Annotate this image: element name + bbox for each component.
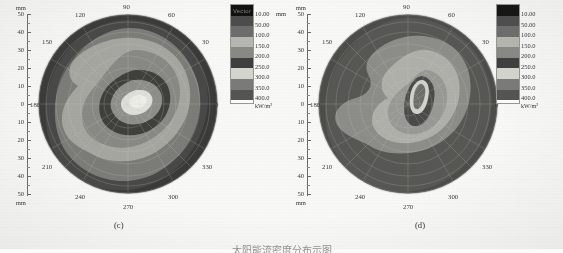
axis-unit-bottom: mm <box>16 200 26 207</box>
colorbar-tick: 100.0 <box>521 31 535 38</box>
colorbar-unit: kW/m² <box>521 103 538 109</box>
axis-tick-label: 10 <box>17 119 24 126</box>
angle-label-300: 300 <box>168 193 178 200</box>
colorbar-tick: 400.0 <box>255 94 269 101</box>
colorbar-tick: 50.00 <box>255 21 269 28</box>
colorbar-tick: 200.0 <box>255 52 269 59</box>
axis-tick <box>307 86 311 87</box>
colorbar-tick: 150.0 <box>521 42 535 49</box>
panel-caption-d: (d) <box>415 220 425 230</box>
axis-tick-label: 40 <box>297 173 304 180</box>
colorbar-tick: 250.0 <box>521 63 535 70</box>
axis-tick-label: 10 <box>17 83 24 90</box>
angle-label-180: 180 <box>30 101 40 108</box>
angle-label-30: 30 <box>202 38 209 45</box>
axis-tick-label: 10 <box>297 119 304 126</box>
colorbar-band-400 <box>231 90 253 101</box>
axis-tick-label: 40 <box>17 29 24 36</box>
colorbar-band-200 <box>497 47 519 58</box>
colorbar-tick: 350.0 <box>255 84 269 91</box>
axis-tick-label: 40 <box>297 29 304 36</box>
axis-tick-label: 50 <box>17 11 24 18</box>
axis-tick-label: 30 <box>17 47 24 54</box>
colorbar-selected-band-label: Vector <box>232 6 252 16</box>
colorbar-tick-labels: 10.00 50.00 100.0 150.0 200.0 250.0 300.… <box>521 4 563 104</box>
colorbar-unit: kW/m² <box>255 103 272 109</box>
angle-label-150: 150 <box>42 38 52 45</box>
angle-label-60: 60 <box>448 11 455 18</box>
angle-label-180: 180 <box>310 101 320 108</box>
colorbar-tick: 350.0 <box>521 84 535 91</box>
axis-minor-tick <box>27 23 30 24</box>
colorbar-tick: 250.0 <box>255 63 269 70</box>
axis-tick <box>27 68 31 69</box>
axis-minor-tick <box>307 41 310 42</box>
axis-minor-tick <box>27 149 30 150</box>
angle-label-90: 90 <box>403 3 410 10</box>
colorbar-band-50 <box>231 16 253 27</box>
axis-tick <box>307 158 311 159</box>
polar-plot-d[interactable] <box>318 14 498 194</box>
colorbar-d[interactable]: 10.00 50.00 100.0 150.0 200.0 250.0 300.… <box>496 4 556 114</box>
colorbar-band-150 <box>231 37 253 48</box>
axis-tick-label: 0 <box>21 101 24 108</box>
axis-tick-label: 20 <box>297 65 304 72</box>
axis-minor-tick <box>27 167 30 168</box>
axis-minor-tick <box>307 167 310 168</box>
axis-tick <box>307 176 311 177</box>
colorbar-band-350 <box>497 79 519 90</box>
panel-d: mm mm 50 40 30 20 10 0 10 20 <box>281 0 563 249</box>
axis-tick <box>27 50 31 51</box>
axis-tick-label: 20 <box>297 137 304 144</box>
axis-tick <box>307 140 311 141</box>
axis-tick <box>307 68 311 69</box>
axis-minor-tick <box>307 113 310 114</box>
axis-minor-tick <box>27 41 30 42</box>
colorbar-band-50 <box>497 16 519 27</box>
axis-minor-tick <box>307 95 310 96</box>
angle-label-300: 300 <box>448 193 458 200</box>
polar-contour-surface-d <box>318 14 498 194</box>
angle-label-270: 270 <box>123 203 133 210</box>
axis-tick-label: 30 <box>297 155 304 162</box>
axis-minor-tick <box>307 149 310 150</box>
colorbar-gradient <box>496 4 520 104</box>
colorbar-tick: 10.00 <box>255 10 269 17</box>
colorbar-band-300 <box>231 68 253 79</box>
angle-label-270: 270 <box>403 203 413 210</box>
axis-tick <box>27 140 31 141</box>
axis-minor-tick <box>307 59 310 60</box>
angle-label-210: 210 <box>42 163 52 170</box>
colorbar-band-400 <box>497 90 519 101</box>
colorbar-tick: 150.0 <box>255 42 269 49</box>
colorbar-tick: 300.0 <box>255 73 269 80</box>
axis-tick-label: 20 <box>17 137 24 144</box>
polar-plot-c[interactable] <box>38 14 218 194</box>
axis-tick <box>27 122 31 123</box>
radial-axis-c: mm mm 50 40 30 20 10 0 10 20 <box>2 0 32 220</box>
angle-label-30: 30 <box>482 38 489 45</box>
colorbar-tick: 200.0 <box>521 52 535 59</box>
axis-tick <box>27 32 31 33</box>
axis-tick <box>307 122 311 123</box>
colorbar-band-250 <box>497 58 519 69</box>
angle-label-150: 150 <box>322 38 332 45</box>
axis-tick-label: 50 <box>17 191 24 198</box>
axis-tick <box>307 14 311 15</box>
axis-minor-tick <box>27 113 30 114</box>
axis-tick-label: 50 <box>297 191 304 198</box>
colorbar-c[interactable]: Vector 10.00 50.00 100.0 150.0 200.0 250… <box>230 4 281 114</box>
axis-tick <box>307 50 311 51</box>
axis-tick-label: 50 <box>297 11 304 18</box>
colorbar-band-100 <box>231 26 253 37</box>
axis-unit-bottom: mm <box>296 200 306 207</box>
axis-tick <box>27 14 31 15</box>
angle-label-120: 120 <box>75 11 85 18</box>
axis-minor-tick <box>27 77 30 78</box>
colorbar-band-10 <box>497 5 519 16</box>
axis-tick <box>27 194 31 195</box>
colorbar-band-200 <box>231 47 253 58</box>
axis-minor-tick <box>307 131 310 132</box>
panel-caption-c: (c) <box>114 220 124 230</box>
